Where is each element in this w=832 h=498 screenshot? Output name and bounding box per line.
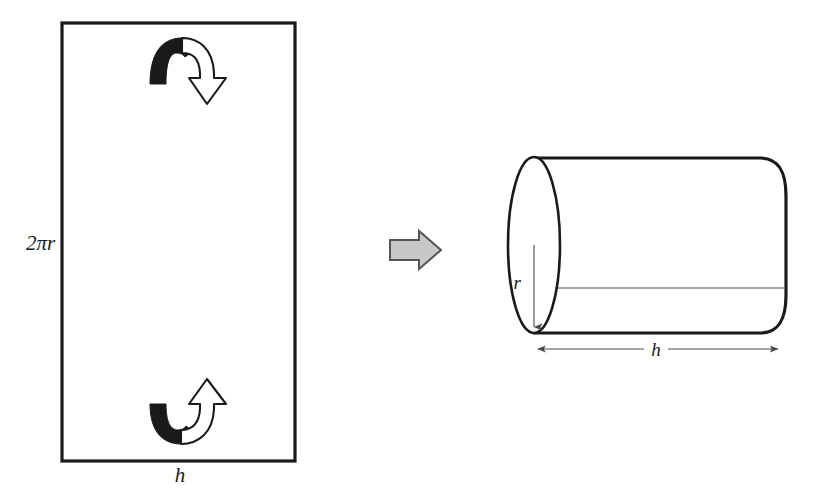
- cylinder-net-figure: 2πr h r h: [0, 0, 832, 498]
- transformation-arrow-shape: [390, 231, 441, 269]
- cylinder-radius-label: r: [514, 272, 522, 293]
- rectangle-group: [62, 23, 295, 461]
- unrolled-rectangle: [62, 23, 295, 461]
- rectangle-height-label: 2πr: [26, 231, 56, 255]
- transformation-arrow: [390, 231, 441, 269]
- cylinder-body-outline: [534, 158, 786, 333]
- rectangle-width-label: h: [175, 463, 186, 487]
- figure-canvas: 2πr h r h: [0, 0, 832, 498]
- cylinder-group: r h: [508, 157, 786, 360]
- cylinder-length-label: h: [651, 339, 661, 360]
